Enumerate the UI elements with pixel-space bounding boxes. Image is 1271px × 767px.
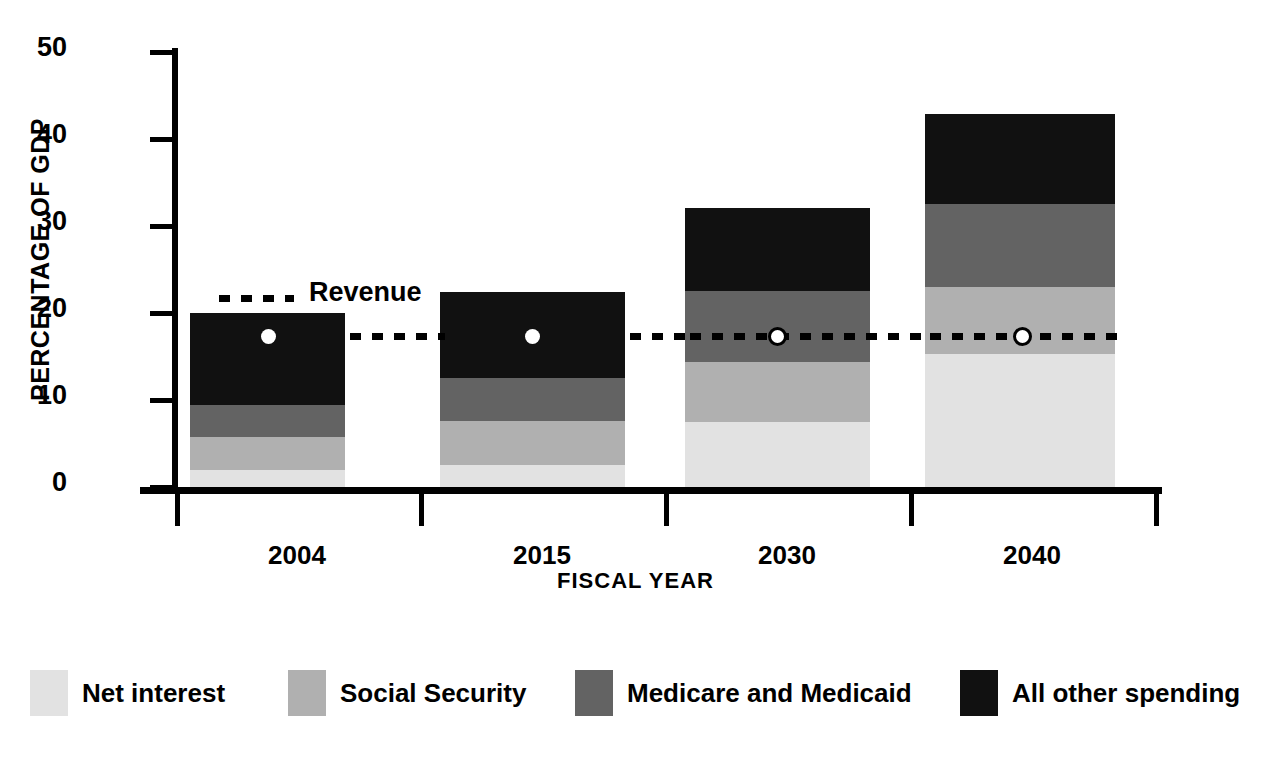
bar-2040[interactable]	[925, 114, 1115, 487]
revenue-line-segment-2	[630, 333, 690, 340]
x-tick-2	[664, 494, 669, 526]
x-tick-label-2015: 2015	[462, 540, 622, 571]
x-tick-label-2040: 2040	[952, 540, 1112, 571]
bar-segment-2015-net-interest	[440, 465, 625, 487]
x-axis-line	[140, 487, 1162, 494]
y-axis-title-wrapper: PERCENTAGE OF GDP	[18, 40, 62, 490]
bar-segment-2040-medicare-and-medicaid	[925, 204, 1115, 287]
revenue-marker-2030	[768, 327, 787, 346]
legend-swatch-all-other-spending	[960, 670, 998, 716]
chart-legend: Net interest Social Security Medicare an…	[30, 670, 1241, 730]
bar-segment-2030-all-other-spending	[685, 208, 870, 291]
bar-segment-2015-social-security	[440, 421, 625, 465]
bar-segment-2040-net-interest	[925, 354, 1115, 487]
revenue-line-segment-1	[350, 333, 445, 340]
x-tick-0	[175, 494, 180, 526]
y-tick-label-0: 0	[0, 469, 67, 496]
y-tick-label-10: 10	[0, 382, 67, 409]
bar-segment-2004-all-other-spending	[190, 313, 345, 405]
bar-2015[interactable]	[440, 292, 625, 487]
bar-segment-2040-all-other-spending	[925, 114, 1115, 204]
y-tick-10	[150, 398, 172, 403]
revenue-marker-2004	[261, 329, 276, 344]
bar-segment-2030-net-interest	[685, 422, 870, 487]
bar-segment-2004-social-security	[190, 437, 345, 470]
legend-swatch-social-security	[288, 670, 326, 716]
y-tick-0	[150, 485, 172, 490]
legend-item-medicare-medicaid[interactable]: Medicare and Medicaid	[575, 670, 912, 716]
y-tick-40	[150, 137, 172, 142]
revenue-marker-2015	[525, 329, 540, 344]
legend-item-all-other-spending[interactable]: All other spending	[960, 670, 1240, 716]
x-tick-1	[419, 494, 424, 526]
y-tick-label-20: 20	[0, 295, 67, 322]
legend-label-net-interest: Net interest	[82, 678, 225, 709]
bar-segment-2004-medicare-and-medicaid	[190, 405, 345, 437]
y-tick-label-50: 50	[0, 34, 67, 61]
x-axis-title: FISCAL YEAR	[0, 568, 1271, 594]
x-tick-4	[1154, 494, 1159, 526]
bar-segment-2015-medicare-and-medicaid	[440, 378, 625, 421]
x-tick-label-2004: 2004	[217, 540, 377, 571]
y-tick-label-30: 30	[0, 208, 67, 235]
legend-item-social-security[interactable]: Social Security	[288, 670, 526, 716]
revenue-label: Revenue	[309, 277, 422, 308]
x-tick-label-2030: 2030	[707, 540, 867, 571]
x-tick-3	[909, 494, 914, 526]
legend-label-medicare-medicaid: Medicare and Medicaid	[627, 678, 912, 709]
revenue-line-segment-3	[690, 333, 930, 340]
y-axis-line	[172, 48, 178, 494]
y-tick-50	[150, 50, 172, 55]
legend-swatch-net-interest	[30, 670, 68, 716]
plot-area: 50 40 30 20 10 0 2004 2015 2030 2040	[172, 40, 1162, 492]
bar-segment-2004-net-interest	[190, 470, 345, 487]
y-tick-label-40: 40	[0, 121, 67, 148]
bar-segment-2030-social-security	[685, 362, 870, 422]
chart-figure: PERCENTAGE OF GDP 50 40 30 20 10 0 2004 …	[0, 0, 1271, 767]
y-tick-20	[150, 311, 172, 316]
legend-label-social-security: Social Security	[340, 678, 526, 709]
revenue-marker-2040	[1013, 327, 1032, 346]
revenue-line-swatch	[219, 295, 294, 302]
bar-2030[interactable]	[685, 208, 870, 487]
legend-item-net-interest[interactable]: Net interest	[30, 670, 225, 716]
legend-swatch-medicare-medicaid	[575, 670, 613, 716]
legend-label-all-other-spending: All other spending	[1012, 678, 1240, 709]
y-tick-30	[150, 224, 172, 229]
